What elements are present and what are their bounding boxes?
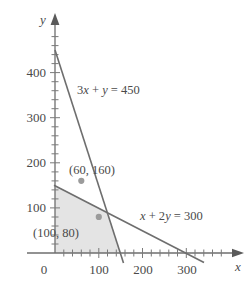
x-axis-arrow-icon [232, 249, 244, 258]
eq1-plus-sign: + [89, 83, 102, 97]
eq1-rhs: = 450 [108, 83, 140, 97]
y-tick-label-400: 400 [27, 65, 47, 80]
feasible-region-shading [55, 185, 121, 253]
x-axis-label: x [234, 259, 241, 274]
linear-programming-graph: 0 100 200 300 100 200 300 400 y x 3x + y… [0, 0, 250, 292]
y-tick-label-300: 300 [27, 110, 47, 125]
eq2-plus-sign: + 2 [146, 209, 166, 223]
x-tick-label-0: 0 [41, 262, 48, 277]
x-tick-label-300: 300 [177, 262, 197, 277]
point-label-60-160: (60, 160) [69, 163, 115, 177]
point-label-100-80: (100, 80) [33, 226, 79, 240]
y-tick-label-100: 100 [27, 200, 47, 215]
y-axis-label: y [38, 12, 46, 27]
x-tick-label-200: 200 [133, 262, 153, 277]
equation-label-3x-plus-y-450: 3x + y = 450 [77, 83, 140, 97]
y-axis-arrow-icon [51, 13, 60, 25]
eq2-rhs: = 300 [171, 209, 203, 223]
graph-figure: 0 100 200 300 100 200 300 400 y x 3x + y… [0, 0, 250, 292]
equation-label-x-plus-2y-300: x + 2y = 300 [139, 209, 203, 223]
data-point-100-80 [96, 214, 102, 220]
data-point-60-160 [78, 178, 84, 184]
x-tick-label-100: 100 [89, 262, 109, 277]
y-tick-label-200: 200 [27, 155, 47, 170]
